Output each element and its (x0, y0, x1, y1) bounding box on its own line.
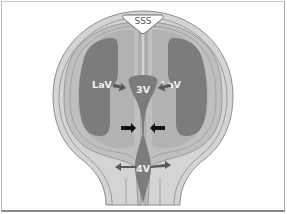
sss-label: SSS (134, 16, 151, 26)
ventricle-diagram: SSS LaV LaV 3V 4V (0, 0, 287, 214)
left-lav-label: LaV (92, 79, 112, 90)
third-ventricle-label: 3V (136, 84, 151, 95)
fourth-ventricle-label: 4V (136, 163, 151, 174)
